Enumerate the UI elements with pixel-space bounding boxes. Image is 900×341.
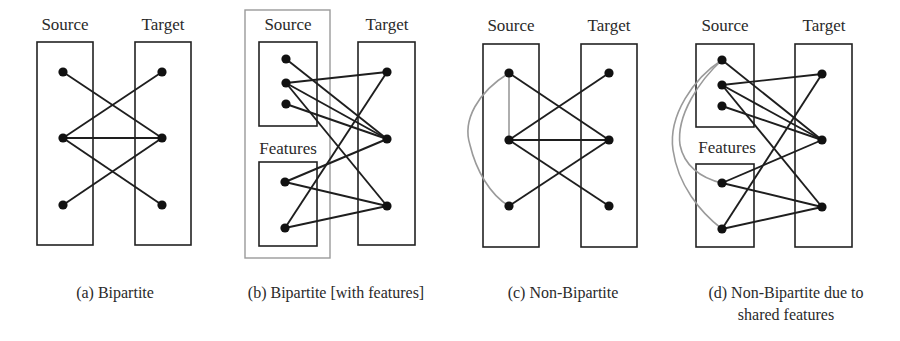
node-T3 [604,201,613,210]
node-S1 [281,54,290,63]
edge-S2-T1 [722,74,822,85]
node-T3 [382,201,391,210]
node-F2 [717,224,726,233]
source-label: Source [264,15,311,34]
edge-F2-T3 [722,207,822,229]
source-label: Source [487,16,534,35]
panel-caption: shared features [738,306,834,323]
edge-F1-T3 [722,183,822,207]
node-T1 [817,69,826,78]
source-label: Source [41,15,88,34]
panel-d: SourceTargetFeatures(d) Non-Bipartite du… [672,16,863,323]
node-S3 [58,200,67,209]
node-S2 [58,133,67,142]
node-T2 [604,135,613,144]
node-T1 [604,68,613,77]
edge-S2-T1 [286,72,387,83]
edge-S3-T2 [286,104,387,139]
node-T1 [157,67,166,76]
edge-S1-T2 [722,60,822,140]
features-box [259,162,317,246]
target-label: Target [366,15,409,34]
node-T1 [382,67,391,76]
node-F2 [280,223,289,232]
node-F1 [717,178,726,187]
node-S2 [281,78,290,87]
panel-c: SourceTarget(c) Non-Bipartite [468,16,637,302]
node-S3 [717,101,726,110]
edge-S3-T2 [722,106,822,140]
node-S3 [281,99,290,108]
node-S1 [58,67,67,76]
node-T3 [157,200,166,209]
edge-F1-T3 [285,182,387,206]
target-label: Target [803,16,846,35]
non-bipartite-edge [468,73,509,206]
node-S2 [504,135,513,144]
bipartite-diagram-figure: SourceTarget(a) BipartiteSourceTargetFea… [0,0,900,341]
panel-caption: (b) Bipartite [with features] [248,284,424,302]
edge-S2-T2 [722,85,822,140]
target-label: Target [142,15,185,34]
source-label: Source [701,16,748,35]
node-S1 [717,55,726,64]
panel-b: SourceTargetFeatures(b) Bipartite [with … [245,10,424,302]
node-S2 [717,80,726,89]
edge-F2-T3 [285,206,387,228]
node-S3 [504,201,513,210]
panel-caption: (a) Bipartite [76,284,154,302]
panel-caption: (c) Non-Bipartite [508,284,619,302]
node-T2 [157,133,166,142]
node-T2 [382,134,391,143]
node-S1 [504,68,513,77]
features-label: Features [259,139,317,158]
edge-S2-T2 [286,83,387,139]
features-label: Features [698,138,756,157]
edge-S1-T2 [286,59,387,139]
node-F1 [280,177,289,186]
node-T2 [817,135,826,144]
panel-a: SourceTarget(a) Bipartite [37,15,191,302]
panel-caption: (d) Non-Bipartite due to [708,284,863,302]
node-T3 [817,202,826,211]
target-label: Target [588,16,631,35]
